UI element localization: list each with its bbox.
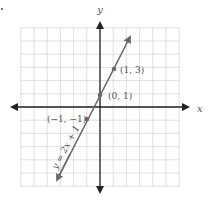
label-neg1-neg1: (−1, −1)	[47, 114, 86, 124]
corner-mark	[1, 8, 3, 10]
y-axis-label: y	[96, 4, 103, 15]
point-1-3	[112, 67, 117, 72]
label-0-1: (0, 1)	[108, 91, 132, 101]
x-axis-label: x	[197, 103, 203, 114]
label-1-3: (1, 3)	[120, 65, 144, 75]
point-0-1	[98, 93, 103, 98]
coordinate-plane: x y (1, 3) (0, 1) (−1, −1) y = 2x + 1	[0, 0, 211, 205]
